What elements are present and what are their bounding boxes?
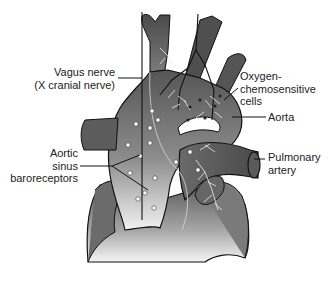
label-aorta-line1: Aorta: [268, 111, 294, 124]
label-baro-line2: sinus: [0, 160, 78, 173]
label-vagus-line1: Vagus nerve: [8, 66, 115, 79]
label-pulmonary-line2: artery: [268, 164, 321, 177]
heart-diagram: [0, 0, 330, 283]
label-chemo-line3: cells: [240, 95, 316, 108]
label-chemo-line1: Oxygen-: [240, 70, 316, 83]
label-pulmonary-line1: Pulmonary: [268, 151, 321, 164]
label-vagus-line2: (X cranial nerve): [8, 79, 115, 92]
label-aorta: Aorta: [268, 111, 294, 124]
left-vessel: [81, 118, 118, 150]
label-baro-line3: baroreceptors: [0, 172, 78, 185]
label-vagus-nerve: Vagus nerve (X cranial nerve): [8, 66, 115, 91]
label-chemosensitive-cells: Oxygen- chemosensitive cells: [240, 70, 316, 108]
label-chemo-line2: chemosensitive: [240, 83, 316, 96]
label-aortic-sinus-baroreceptors: Aortic sinus baroreceptors: [0, 147, 78, 185]
label-baro-line1: Aortic: [0, 147, 78, 160]
label-pulmonary-artery: Pulmonary artery: [268, 151, 321, 176]
